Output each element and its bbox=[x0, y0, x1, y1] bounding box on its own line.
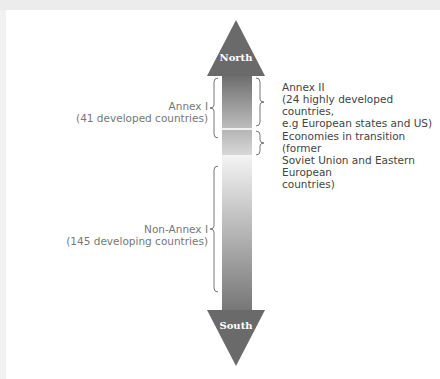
non-annex-i-brace bbox=[210, 166, 218, 292]
annex-i-title: Annex I bbox=[76, 100, 208, 112]
transition-label: Economies in transition (former Soviet U… bbox=[282, 130, 440, 190]
transition-brace bbox=[256, 131, 264, 155]
annex-ii-line-2: e.g European states and US) bbox=[282, 117, 440, 129]
annex-ii-segment bbox=[222, 76, 252, 128]
annex-ii-line-1: (24 highly developed countries, bbox=[282, 93, 440, 117]
non-annex-i-line-1: (145 developing countries) bbox=[66, 235, 208, 247]
annex-ii-title: Annex II bbox=[282, 81, 440, 93]
transition-line-1: Soviet Union and Eastern European bbox=[282, 154, 440, 178]
annex-i-line-1: (41 developed countries) bbox=[76, 112, 208, 124]
non-annex-segment bbox=[222, 155, 252, 310]
non-annex-i-label: Non-Annex I (145 developing countries) bbox=[66, 223, 208, 247]
south-label: South bbox=[206, 320, 266, 331]
north-arrowhead bbox=[207, 20, 265, 76]
south-arrowhead bbox=[207, 310, 265, 366]
annex-i-label: Annex I (41 developed countries) bbox=[76, 100, 208, 124]
non-annex-i-title: Non-Annex I bbox=[66, 223, 208, 235]
annex-ii-label: Annex II (24 highly developed countries,… bbox=[282, 81, 440, 129]
annex-ii-brace bbox=[256, 78, 264, 126]
annex-i-brace bbox=[210, 78, 218, 138]
transition-title: Economies in transition (former bbox=[282, 130, 440, 154]
north-label: North bbox=[206, 52, 266, 63]
transition-segment bbox=[222, 130, 252, 155]
transition-line-2: countries) bbox=[282, 178, 440, 190]
